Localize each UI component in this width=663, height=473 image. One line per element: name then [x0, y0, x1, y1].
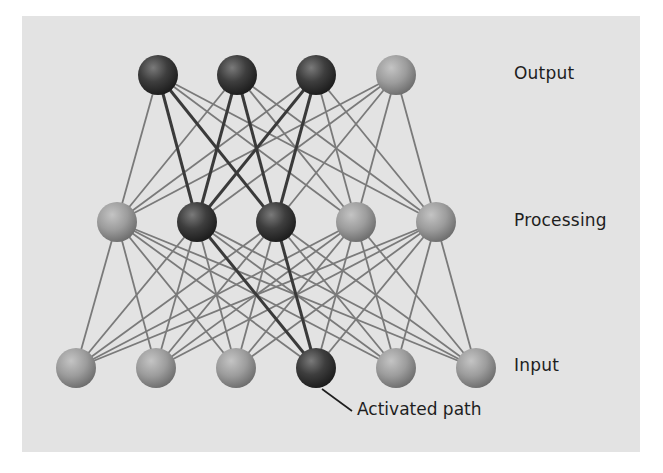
edge: [276, 75, 396, 222]
input-node: [216, 348, 256, 388]
output-node: [376, 55, 416, 95]
active-output-node: [296, 55, 336, 95]
callout-leader-line: [322, 389, 352, 411]
edge: [76, 222, 197, 368]
activated-edge: [276, 75, 316, 222]
activated-edge: [276, 222, 316, 368]
edge: [316, 222, 436, 368]
edge: [436, 222, 476, 368]
activated-path-label: Activated path: [357, 399, 482, 419]
active-output-node: [217, 55, 257, 95]
input-node: [136, 348, 176, 388]
input-node: [456, 348, 496, 388]
layer-label-input: Input: [514, 355, 559, 375]
edge: [396, 75, 436, 222]
active-input-node: [296, 348, 336, 388]
processing-node: [97, 202, 137, 242]
input-node: [56, 348, 96, 388]
processing-node: [336, 202, 376, 242]
layer-label-output: Output: [514, 63, 574, 83]
edge: [396, 222, 436, 368]
active-processing-node: [256, 202, 296, 242]
processing-node: [416, 202, 456, 242]
layer-label-processing: Processing: [514, 210, 607, 230]
edge: [236, 222, 436, 368]
activated-edge: [197, 75, 237, 222]
input-node: [376, 348, 416, 388]
edge: [76, 222, 117, 368]
active-processing-node: [177, 202, 217, 242]
active-output-node: [138, 55, 178, 95]
edge: [76, 222, 276, 368]
edge: [356, 75, 396, 222]
edge: [117, 75, 158, 222]
